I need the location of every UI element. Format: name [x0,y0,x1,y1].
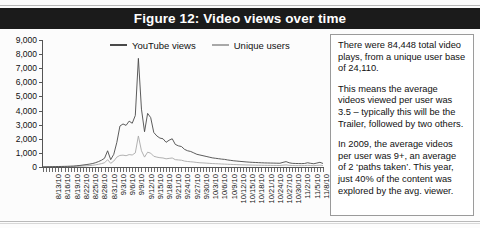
y-axis-tick-label: 0 [32,162,37,172]
x-axis-tick [89,168,90,172]
x-axis-tick [141,168,142,172]
x-axis-tick [126,168,127,172]
x-axis-tick [117,168,118,172]
x-axis-tick [301,168,302,172]
x-axis-tick [320,168,321,172]
y-axis-tick-label: 1,000 [16,148,37,158]
x-axis-tick [280,168,281,172]
x-axis-tick [111,168,112,172]
x-axis-tick [157,168,158,172]
x-axis-tick [160,168,161,172]
x-axis-tick-label: 11/5/10 [314,174,322,199]
x-axis-tick-label: 9/6/10 [129,174,137,195]
x-axis-tick [191,168,192,172]
x-axis-tick [271,168,272,172]
x-axis-tick [234,168,235,172]
annotation-paragraph-1: There were 84,448 total video plays, fro… [338,40,466,75]
x-axis-tick [178,168,179,172]
x-axis-tick-label: 10/3/10 [212,174,220,199]
x-axis-tick [265,168,266,172]
x-axis-tick [249,168,250,172]
x-axis-tick-label: 10/21/10 [268,174,276,204]
x-axis-tick-label: 8/16/10 [64,174,72,199]
x-axis-tick [135,168,136,172]
x-axis-tick [43,168,44,172]
x-axis-tick [209,168,210,172]
x-axis-tick [200,168,201,172]
x-axis-tick [120,168,121,172]
x-axis-tick [175,168,176,172]
x-axis-tick [277,168,278,172]
x-axis-labels: 8/13/108/16/108/19/108/22/108/25/108/28/… [42,174,324,220]
x-axis-tick [181,168,182,172]
x-axis-tick-label: 8/13/10 [55,174,63,199]
y-axis-tick-label: 3,000 [16,120,37,130]
x-axis-tick-label: 10/12/10 [240,174,248,204]
annotation-paragraph-3: In 2009, the average videos per user was… [338,139,466,197]
x-axis-tick [80,168,81,172]
figure-title-bar: Figure 12: Video views over time [0,8,480,29]
x-axis-tick [311,168,312,172]
x-axis-tick [221,168,222,172]
x-axis-tick-label: 10/15/10 [249,174,257,204]
x-axis-tick [77,168,78,172]
x-axis-tick [114,168,115,172]
series-line-unique-users [43,136,323,167]
x-axis-tick [228,168,229,172]
x-axis-tick [295,168,296,172]
x-axis-tick [274,168,275,172]
x-axis-tick-label: 8/25/10 [92,174,100,199]
annotation-paragraph-2: This means the average videos viewed per… [338,84,466,130]
bottom-divider [0,221,480,222]
y-axis-tick-label: 2,000 [16,134,37,144]
x-axis-tick-label: 11/2/10 [304,174,312,199]
x-axis-tick [286,168,287,172]
x-axis-tick [138,168,139,172]
x-axis-ticks [42,168,324,173]
x-axis-tick [163,168,164,172]
x-axis-tick [65,168,66,172]
x-axis-tick [92,168,93,172]
x-axis-tick [154,168,155,172]
x-axis-tick [151,168,152,172]
x-axis-tick [55,168,56,172]
x-axis-tick [317,168,318,172]
x-axis-tick [215,168,216,172]
series-line-youtube-views [43,58,323,167]
x-axis-tick-label: 9/9/10 [138,174,146,195]
x-axis-tick [268,168,269,172]
x-axis-tick-label: 9/15/10 [157,174,165,199]
x-axis-tick-label: 9/21/10 [175,174,183,199]
x-axis-tick [231,168,232,172]
x-axis-tick [246,168,247,172]
x-axis-tick [255,168,256,172]
x-axis-tick [197,168,198,172]
x-axis-tick-label: 8/28/10 [101,174,109,199]
x-axis-tick-label: 9/24/10 [184,174,192,199]
x-axis-tick [46,168,47,172]
x-axis-tick-label: 10/9/10 [231,174,239,199]
x-axis-tick [166,168,167,172]
x-axis-tick-label: 10/6/10 [221,174,229,199]
x-axis-tick [148,168,149,172]
x-axis-tick [243,168,244,172]
x-axis-tick [61,168,62,172]
y-axis-tick-label: 7,000 [16,63,37,73]
x-axis-tick [261,168,262,172]
x-axis-tick-label: 10/18/10 [258,174,266,204]
x-axis-tick [74,168,75,172]
x-axis-tick-label: 9/3/10 [120,174,128,195]
y-axis-tick-label: 5,000 [16,91,37,101]
bottom-divider-secondary [0,223,480,224]
x-axis-tick [95,168,96,172]
x-axis-tick [206,168,207,172]
x-axis-tick-label: 9/27/10 [194,174,202,199]
x-axis-tick-label: 9/30/10 [203,174,211,199]
x-axis-tick [314,168,315,172]
y-axis-tick-label: 4,000 [16,106,37,116]
y-axis-labels: 01,0002,0003,0004,0005,0006,0007,0008,00… [0,31,40,167]
x-axis-tick-label: 9/18/10 [166,174,174,199]
x-axis-tick [49,168,50,172]
x-axis-tick [292,168,293,172]
x-axis-tick [298,168,299,172]
